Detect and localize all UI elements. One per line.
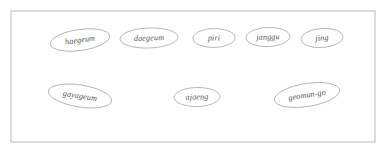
node-piri[interactable]: piri bbox=[193, 28, 235, 48]
diagram-canvas: haegeumdaegeumpirijanggujinggayageumajae… bbox=[0, 0, 387, 149]
node-label-ajaeng: ajaeng bbox=[185, 92, 208, 101]
node-label-janggu: janggu bbox=[255, 32, 280, 42]
node-ajaeng[interactable]: ajaeng bbox=[174, 87, 220, 107]
node-label-jing: jing bbox=[314, 33, 329, 43]
node-label-piri: piri bbox=[207, 33, 221, 42]
node-label-daegeum: daegeum bbox=[134, 33, 165, 43]
diagram-svg: haegeumdaegeumpirijanggujinggayageumajae… bbox=[0, 0, 387, 149]
